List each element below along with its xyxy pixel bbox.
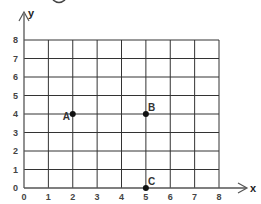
y-tick-label: 4 xyxy=(13,109,18,119)
x-tick-label: 6 xyxy=(168,192,173,202)
y-tick-label: 6 xyxy=(13,72,18,82)
y-tick-label: 3 xyxy=(13,128,18,138)
y-tick-label: 2 xyxy=(13,146,18,156)
coordinate-plane: y x 012345678 012345678 ABC xyxy=(0,0,261,204)
x-tick-label: 0 xyxy=(21,192,26,202)
x-tick-label: 5 xyxy=(143,192,148,202)
x-tick-label: 7 xyxy=(192,192,197,202)
point-a xyxy=(70,111,76,117)
point-label-b: B xyxy=(148,102,155,113)
x-tick-label: 8 xyxy=(216,192,221,202)
point-label-c: C xyxy=(148,176,155,187)
y-tick-label: 8 xyxy=(13,35,18,45)
axes: y x xyxy=(19,7,257,194)
point-label-a: A xyxy=(63,111,70,122)
x-axis-label: x xyxy=(250,182,257,194)
y-axis-label: y xyxy=(28,7,35,19)
points: ABC xyxy=(63,102,155,191)
x-tick-label: 4 xyxy=(119,192,124,202)
x-tick-label: 3 xyxy=(95,192,100,202)
y-tick-labels: 012345678 xyxy=(13,35,18,193)
cropped-heading-fragment xyxy=(53,0,65,3)
y-tick-label: 1 xyxy=(13,165,18,175)
y-tick-label: 7 xyxy=(13,54,18,64)
x-tick-label: 1 xyxy=(46,192,51,202)
y-tick-label: 5 xyxy=(13,91,18,101)
x-tick-label: 2 xyxy=(70,192,75,202)
grid-lines xyxy=(24,40,219,188)
x-tick-labels: 012345678 xyxy=(21,192,221,202)
y-tick-label: 0 xyxy=(13,183,18,193)
